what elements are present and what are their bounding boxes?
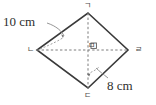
leader-line-ten-cm [47,23,64,36]
measurement-label-ten-cm: 10 cm [3,15,35,28]
vertex-label-right: ㄹ [135,46,142,54]
rhombus-figure: ㄱ ㄴ ㄷ ㄹ ㅁ 10 cm 8 cm [0,0,156,105]
vertex-label-top: ㄱ [84,2,91,10]
vertex-label-bottom: ㄷ [84,92,91,100]
measurement-label-eight-cm: 8 cm [107,79,133,92]
vertex-label-left: ㄴ [27,46,34,54]
center-point-label: ㅁ [88,42,95,50]
bottom-vertex-pointer-arc [87,67,99,74]
leader-line-eight-cm [96,68,108,78]
